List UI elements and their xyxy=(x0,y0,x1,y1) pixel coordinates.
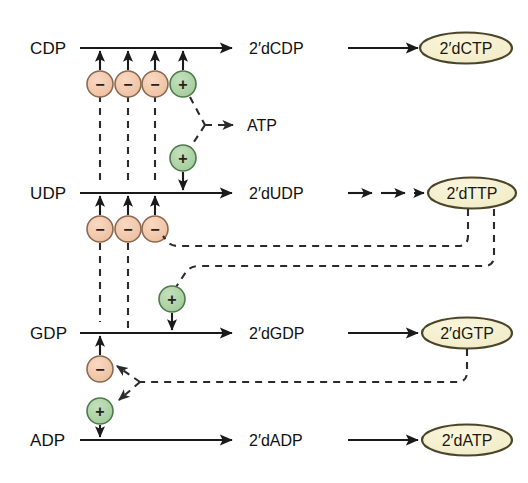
dttp-inhibit-path xyxy=(163,209,468,246)
gdp-activator: + xyxy=(159,286,185,330)
atp-label: ATP xyxy=(247,117,277,134)
gdp-pos-sign: + xyxy=(167,291,176,308)
gdp-row: GDP 2′dGDP 2′dGTP xyxy=(30,318,512,349)
pathway-diagram: CDP 2′dCDP 2′dCTP − − − + xyxy=(0,0,528,483)
cdp-neg-sign-1: − xyxy=(95,76,104,93)
cdp-regulator-circles: − − − + xyxy=(87,71,196,97)
atp-branch-upper xyxy=(190,97,205,125)
datp-label: 2′dATP xyxy=(442,432,493,449)
atp-activation-branch: ATP xyxy=(190,97,277,148)
udp-pos-sign-atp: + xyxy=(178,150,187,167)
gdp-neg-sign: − xyxy=(95,361,104,378)
adp-intermediate-label: 2′dADP xyxy=(249,432,303,449)
adp-row: ADP 2′dADP 2′dATP xyxy=(30,425,512,456)
dgtp-label: 2′dGTP xyxy=(440,325,494,342)
udp-neg-sign-1: − xyxy=(95,221,104,238)
dttp-feedback-lines xyxy=(163,209,494,287)
atp-branch-lower xyxy=(190,125,205,148)
adp-activator: + xyxy=(87,398,113,437)
cdp-neg-sign-2: − xyxy=(123,76,132,93)
udp-regulator-circles: − − − xyxy=(87,216,168,242)
cdp-neg-sign-3: − xyxy=(150,76,159,93)
cdp-row: CDP 2′dCDP 2′dCTP xyxy=(30,33,512,64)
dgtp-inhibit-gdp-branch xyxy=(117,366,140,382)
udp-intermediate-label: 2′dUDP xyxy=(249,185,304,202)
dctp-label: 2′dCTP xyxy=(440,40,493,57)
dgtp-activate-adp-branch xyxy=(119,382,140,400)
udp-neg-sign-3: − xyxy=(150,221,159,238)
udp-substrate-label: UDP xyxy=(30,184,66,203)
adp-pos-sign: + xyxy=(95,403,104,420)
cdp-pos-sign-atp: + xyxy=(178,76,187,93)
udp-row: UDP 2′dUDP 2′dTTP xyxy=(30,178,516,209)
dgtp-feedback-lines xyxy=(117,349,467,400)
cdp-substrate-label: CDP xyxy=(30,39,66,58)
cdp-effector-arrows xyxy=(100,51,183,70)
dttp-activate-gdp-path xyxy=(176,209,494,287)
gdp-intermediate-label: 2′dGDP xyxy=(249,325,304,342)
dgtp-feedback-trunk xyxy=(140,349,467,382)
gdp-substrate-label: GDP xyxy=(30,324,67,343)
gdp-inhibitor: − xyxy=(87,336,113,382)
cdp-intermediate-label: 2′dCDP xyxy=(249,40,304,57)
adp-substrate-label: ADP xyxy=(30,431,65,450)
udp-activator: + xyxy=(170,145,196,190)
diagram-canvas: CDP 2′dCDP 2′dCTP − − − + xyxy=(0,0,528,483)
udp-effector-arrows xyxy=(100,196,155,215)
dttp-label: 2′dTTP xyxy=(446,185,497,202)
udp-neg-sign-2: − xyxy=(123,221,132,238)
